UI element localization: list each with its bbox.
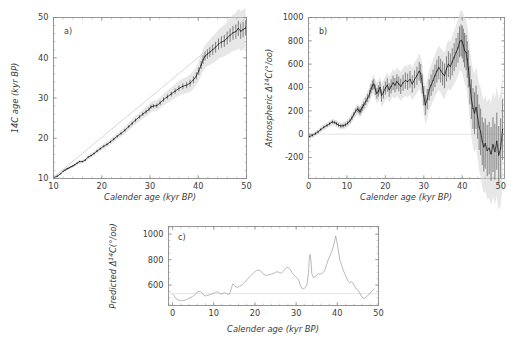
panel-c-label: c) bbox=[178, 233, 186, 242]
tick-label-x: 50 bbox=[495, 181, 505, 191]
tick-label-y: 20 bbox=[38, 133, 48, 143]
panel-a-reference-line bbox=[54, 18, 247, 178]
tick-label-y: 10 bbox=[38, 173, 48, 183]
tick-label-y: 200 bbox=[288, 106, 304, 116]
figure-canvas: 10203040501020304050 a) Calender age (ky… bbox=[0, 0, 518, 347]
tick-label-y: 800 bbox=[288, 36, 304, 46]
tick-label-x: 0 bbox=[306, 181, 311, 191]
tick-label-y: 40 bbox=[38, 53, 48, 63]
tick-label-x: 0 bbox=[170, 308, 175, 318]
tick-label-x: 50 bbox=[373, 308, 383, 318]
tick-label-x: 30 bbox=[419, 181, 429, 191]
panel-c-ylabel: Predicted Δ14C(°/oo) bbox=[107, 223, 118, 308]
tick-label-y: 800 bbox=[148, 255, 164, 265]
panel-c-ylabel-sup: 14 bbox=[107, 253, 114, 261]
panel-a: 10203040501020304050 a) Calender age (ky… bbox=[0, 0, 258, 208]
panel-c-xlabel: Calender age (kyr BP) bbox=[227, 324, 319, 334]
tick-label-x: 10 bbox=[342, 181, 352, 191]
panel-b-label: b) bbox=[319, 27, 327, 36]
panel-b-ylabel-units: (°/oo) bbox=[264, 49, 274, 73]
panel-b-ylabel-prefix: Atmospheric bbox=[264, 92, 274, 148]
tick-label-y: 0 bbox=[298, 129, 303, 139]
panel-c: 010203040506008001000 c) Calender age (k… bbox=[100, 208, 400, 347]
panel-c-ylabel-prefix: Predicted bbox=[108, 266, 118, 308]
tick-label-y: -200 bbox=[285, 152, 304, 162]
panel-b: 01020304050-20002004006008001000 b) Cale… bbox=[258, 0, 518, 208]
panel-c-dataline bbox=[173, 236, 375, 301]
panel-b-ylabel-sup: 14 bbox=[263, 78, 270, 86]
panel-b-xlabel: Calender age (kyr BP) bbox=[360, 192, 452, 202]
tick-label-x: 20 bbox=[380, 181, 390, 191]
tick-label-x: 30 bbox=[145, 181, 155, 191]
tick-label-x: 20 bbox=[250, 308, 260, 318]
tick-label-y: 1000 bbox=[283, 12, 304, 22]
tick-label-x: 10 bbox=[209, 308, 219, 318]
panel-a-label: a) bbox=[64, 27, 72, 36]
panel-b-ylabel: Atmospheric Δ14C(°/oo) bbox=[263, 49, 274, 149]
panel-a-xlabel: Calender age (kyr BP) bbox=[104, 192, 196, 202]
tick-label-y: 30 bbox=[38, 93, 48, 103]
panel-b-plot-area: 01020304050-20002004006008001000 bbox=[283, 10, 506, 210]
tick-label-x: 40 bbox=[457, 181, 467, 191]
tick-label-y: 1000 bbox=[143, 229, 164, 239]
tick-label-x: 30 bbox=[291, 308, 301, 318]
tick-label-x: 40 bbox=[193, 181, 203, 191]
tick-label-x: 40 bbox=[332, 308, 342, 318]
tick-label-x: 10 bbox=[48, 181, 58, 191]
tick-label-y: 400 bbox=[288, 82, 304, 92]
tick-label-y: 600 bbox=[288, 59, 304, 69]
tick-label-x: 50 bbox=[241, 181, 251, 191]
tick-label-y: 600 bbox=[148, 280, 164, 290]
tick-label-y: 50 bbox=[38, 12, 48, 22]
panel-c-ylabel-units: (°/oo) bbox=[108, 223, 118, 247]
svg-text:Atmospheric Δ14C(°/oo): Atmospheric Δ14C(°/oo) bbox=[263, 49, 274, 149]
svg-text:Predicted Δ14C(°/oo): Predicted Δ14C(°/oo) bbox=[107, 223, 118, 308]
tick-label-x: 20 bbox=[97, 181, 107, 191]
panel-a-ylabel: 14C age (kyr BP) bbox=[10, 63, 20, 134]
